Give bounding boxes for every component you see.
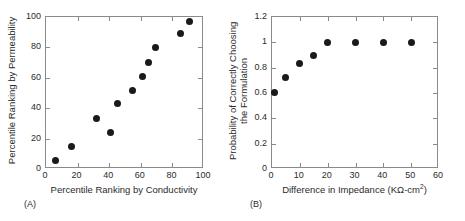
ticklabel-b-x-10: 10 [294, 171, 304, 180]
tick-b-y-1 [272, 42, 276, 43]
data-point [296, 60, 303, 67]
ticklabel-a-y-0: 0 [20, 164, 41, 173]
tick-a-x-80 [172, 163, 173, 167]
y-axis-title-b: Probability of Correctly Choosing the Fo… [228, 0, 250, 186]
tick-b-y-0.8 [272, 68, 276, 69]
ticklabel-b-x-20: 20 [322, 171, 332, 180]
tick-b-x-30 [356, 163, 357, 167]
tick-b-xtop-30 [356, 17, 357, 21]
tick-b-yright-0.4 [433, 118, 437, 119]
ticklabel-b-x-40: 40 [377, 171, 387, 180]
panel-tag-a: (A) [24, 199, 36, 209]
data-point [139, 73, 146, 80]
data-point [282, 74, 289, 81]
data-point [145, 59, 152, 66]
data-point [380, 39, 387, 46]
data-point [152, 44, 159, 51]
tick-a-yright-60 [198, 78, 202, 79]
x-axis-title-b-close: ) [424, 184, 427, 195]
plot-area-b [271, 16, 438, 168]
figure-container: 0 20 40 60 80 100 0 20 40 60 80 100 Perc… [0, 0, 465, 221]
data-point [68, 143, 75, 150]
data-point [271, 89, 278, 96]
tick-b-y-0.2 [272, 144, 276, 145]
tick-a-y-20 [46, 139, 50, 140]
tick-b-xtop-10 [300, 17, 301, 21]
tick-b-xtop-40 [383, 17, 384, 21]
ticklabel-a-y-40: 40 [20, 103, 41, 112]
data-point [52, 157, 59, 164]
tick-a-y-80 [46, 47, 50, 48]
tick-b-xtop-20 [328, 17, 329, 21]
data-point [107, 129, 114, 136]
data-point [352, 39, 359, 46]
data-point [129, 87, 136, 94]
data-point [177, 30, 184, 37]
tick-b-yright-0.8 [433, 68, 437, 69]
tick-a-y-40 [46, 108, 50, 109]
x-axis-title-a: Percentile Ranking by Conductivity [45, 185, 203, 195]
ticklabel-b-x-50: 50 [405, 171, 415, 180]
ticklabel-b-x-0: 0 [268, 171, 273, 180]
tick-a-xtop-20 [78, 17, 79, 21]
tick-a-xtop-80 [172, 17, 173, 21]
ticklabel-a-x-0: 0 [42, 171, 47, 180]
tick-a-x-60 [141, 163, 142, 167]
ticklabel-a-x-60: 60 [135, 171, 145, 180]
y-axis-title-b-line2: the Formulation [239, 0, 250, 186]
ticklabel-a-y-80: 80 [20, 42, 41, 51]
tick-b-y-0.4 [272, 118, 276, 119]
data-point [93, 115, 100, 122]
data-point [186, 18, 193, 25]
tick-b-yright-0.2 [433, 144, 437, 145]
y-axis-title-a: Percentile Ranking by Permeability [7, 14, 18, 166]
tick-b-x-20 [328, 163, 329, 167]
tick-b-yright-1 [433, 42, 437, 43]
ticklabel-a-y-60: 60 [20, 72, 41, 81]
ticklabel-a-x-100: 100 [195, 171, 210, 180]
panel-tag-b: (B) [250, 199, 262, 209]
tick-b-x-50 [411, 163, 412, 167]
data-point [310, 52, 317, 59]
tick-b-yright-0.6 [433, 93, 437, 94]
x-axis-title-b-text: Difference in Impedance (KΩ-cm [282, 184, 420, 195]
data-point [324, 39, 331, 46]
plot-area-a [45, 16, 203, 168]
tick-a-y-60 [46, 78, 50, 79]
panel-b: 0 10 20 30 40 50 60 0 0.2 0.4 0.6 0.8 1 … [232, 0, 465, 221]
ticklabel-a-x-40: 40 [103, 171, 113, 180]
ticklabel-a-x-80: 80 [166, 171, 176, 180]
ticklabel-a-x-20: 20 [72, 171, 82, 180]
data-point [408, 39, 415, 46]
panel-a: 0 20 40 60 80 100 0 20 40 60 80 100 Perc… [0, 0, 232, 221]
tick-a-yright-20 [198, 139, 202, 140]
tick-a-yright-40 [198, 108, 202, 109]
ticklabel-b-x-30: 30 [349, 171, 359, 180]
ticklabel-a-y-20: 20 [20, 133, 41, 142]
tick-a-yright-80 [198, 47, 202, 48]
ticklabel-b-x-60: 60 [433, 171, 443, 180]
tick-b-x-40 [383, 163, 384, 167]
ticklabel-a-y-100: 100 [20, 12, 41, 21]
tick-a-x-40 [109, 163, 110, 167]
tick-b-xtop-50 [411, 17, 412, 21]
data-point [114, 100, 121, 107]
tick-a-xtop-60 [141, 17, 142, 21]
tick-a-x-20 [78, 163, 79, 167]
tick-a-xtop-40 [109, 17, 110, 21]
x-axis-title-b: Difference in Impedance (KΩ-cm2) [271, 185, 438, 195]
tick-b-x-10 [300, 163, 301, 167]
